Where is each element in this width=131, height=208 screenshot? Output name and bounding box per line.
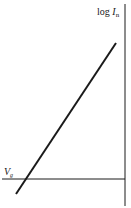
- vg-label: Vg: [4, 166, 13, 178]
- diagram-canvas: log In Vg: [0, 0, 131, 208]
- y-axis-label: log In: [97, 6, 120, 19]
- log-current-diagonal-line: [16, 43, 116, 194]
